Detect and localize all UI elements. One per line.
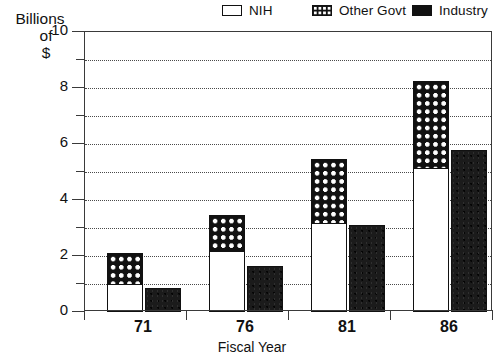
- x-tick-86: [390, 311, 391, 320]
- x-axis-title: Fiscal Year: [0, 339, 504, 355]
- bar-chart: NIH Other Govt Industry Billions of $ 02…: [0, 0, 504, 363]
- x-tick-end: [492, 311, 493, 320]
- bar-industry-81: [349, 225, 385, 312]
- legend-label-industry: Industry: [439, 3, 488, 18]
- y-tick-label-2: 2: [40, 245, 68, 262]
- x-tick-label-76: 76: [215, 318, 275, 336]
- x-tick-76: [186, 311, 187, 320]
- bar-nih-81: [311, 222, 347, 312]
- x-tick-81: [288, 311, 289, 320]
- bar-nih-71: [107, 284, 143, 312]
- y-tick-label-10: 10: [40, 21, 68, 38]
- y-tick-8: [72, 87, 84, 88]
- bar-industry-71: [145, 288, 181, 312]
- y-minor-tick-5: [76, 171, 84, 172]
- y-minor-tick-9: [76, 59, 84, 60]
- y-minor-tick-7: [76, 115, 84, 116]
- y-tick-label-6: 6: [40, 133, 68, 150]
- bar-nih-76: [209, 250, 245, 312]
- bar-other-govt-81: [311, 159, 347, 223]
- y-tick-2: [72, 255, 84, 256]
- y-tick-label-4: 4: [40, 189, 68, 206]
- bar-other-govt-86: [413, 81, 449, 169]
- x-tick-71: [84, 311, 85, 320]
- legend-swatch-open-icon: [222, 5, 242, 16]
- x-tick-label-86: 86: [419, 318, 479, 336]
- legend-item-other-govt: Other Govt: [312, 1, 406, 19]
- legend-item-nih: NIH: [222, 1, 273, 19]
- legend-label-nih: NIH: [249, 3, 273, 18]
- y-minor-tick-1: [76, 283, 84, 284]
- bar-other-govt-71: [107, 253, 143, 285]
- y-tick-6: [72, 143, 84, 144]
- legend-swatch-checker-icon: [312, 5, 332, 16]
- bar-industry-76: [247, 266, 283, 312]
- legend-swatch-solid-icon: [412, 5, 432, 16]
- y-tick-label-0: 0: [40, 301, 68, 318]
- y-tick-label-8: 8: [40, 77, 68, 94]
- y-tick-0: [72, 311, 84, 312]
- bar-industry-86: [451, 150, 487, 312]
- x-tick-label-81: 81: [317, 318, 377, 336]
- bar-other-govt-76: [209, 215, 245, 251]
- y-axis-title-line-3: $: [2, 44, 78, 61]
- plot-area: [84, 31, 492, 311]
- y-tick-10: [72, 31, 84, 32]
- bar-nih-86: [413, 168, 449, 312]
- legend-label-other-govt: Other Govt: [339, 3, 406, 18]
- x-tick-label-71: 71: [113, 318, 173, 336]
- y-tick-4: [72, 199, 84, 200]
- bars-layer: [85, 32, 491, 310]
- legend-item-industry: Industry: [412, 1, 488, 19]
- y-minor-tick-3: [76, 227, 84, 228]
